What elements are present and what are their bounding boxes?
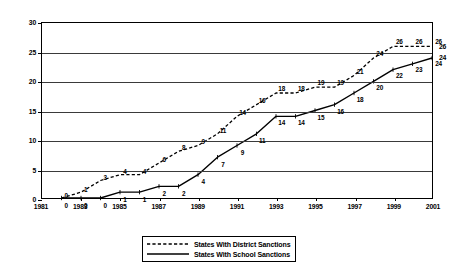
x-axis-tick [356, 198, 357, 201]
series-line-1 [62, 46, 433, 198]
data-point-label: 9 [241, 148, 244, 155]
y-axis-tick [38, 112, 42, 113]
data-point-label: 26 [396, 38, 403, 45]
data-point-label: 0 [84, 202, 87, 209]
legend-item[interactable]: States With School Sanctions [146, 249, 291, 259]
data-point-label: 6 [162, 156, 165, 163]
y-axis-tick-label: 15 [29, 107, 36, 114]
data-point-label: 19 [337, 79, 344, 86]
gridline [42, 53, 432, 54]
x-axis-tick [81, 198, 82, 201]
x-axis-tick-label: 1985 [112, 203, 126, 210]
data-point-label: 1 [123, 196, 126, 203]
x-axis-tick-label: 1999 [387, 203, 401, 210]
data-point-label: 9 [202, 138, 205, 145]
data-point-label: 15 [318, 113, 325, 120]
x-axis-tick-label: 1993 [269, 203, 283, 210]
data-point-label: 16 [259, 97, 266, 104]
data-point-label: 4 [123, 167, 126, 174]
data-point-label: 0 [104, 202, 107, 209]
data-point-label: 7 [221, 160, 224, 167]
data-point-label: 18 [357, 95, 364, 102]
x-axis-tick-label: 1995 [308, 203, 322, 210]
x-axis-tick [120, 198, 121, 201]
x-axis-tick-label: 1981 [34, 203, 48, 210]
x-axis-tick-label: 2001 [426, 203, 440, 210]
plot-area [41, 22, 433, 199]
y-axis-tick [38, 171, 42, 172]
data-point-label: 1 [143, 196, 146, 203]
data-point-label: 2 [162, 190, 165, 197]
x-axis-tick [316, 198, 317, 201]
data-point-label: 26 [416, 38, 423, 45]
series-line-2 [62, 58, 433, 198]
x-axis-tick [199, 198, 200, 201]
y-axis-tick [38, 141, 42, 142]
gridline [42, 171, 432, 172]
data-point-label: 2 [182, 190, 185, 197]
data-point-label: 0 [64, 191, 67, 198]
y-axis-tick-label: 5 [32, 166, 36, 173]
y-axis-tick-label: 10 [29, 137, 36, 144]
y-axis-labels: 051015202530 [12, 22, 36, 199]
y-axis-tick [38, 200, 42, 201]
legend-item[interactable]: States With District Sanctions [146, 239, 291, 249]
legend-dotted-line-icon [146, 240, 190, 248]
x-axis-tick-label: 1997 [347, 203, 361, 210]
data-point-label: 22 [396, 72, 403, 79]
data-point-label: 24 [435, 60, 442, 67]
series-end-label: 26 [439, 42, 446, 49]
line-chart: 051015202530 198119831985198719891991199… [0, 0, 464, 270]
legend-item-label: States With School Sanctions [194, 251, 290, 258]
data-point-label: 24 [376, 49, 383, 56]
data-point-label: 20 [376, 84, 383, 91]
x-axis-tick [238, 198, 239, 201]
x-axis-tick-label: 1989 [191, 203, 205, 210]
data-point-label: 3 [104, 173, 107, 180]
series-end-label: 24 [439, 54, 446, 61]
data-point-label: 23 [416, 66, 423, 73]
data-point-label: 14 [239, 108, 246, 115]
y-axis-tick [38, 23, 42, 24]
data-point-label: 16 [337, 107, 344, 114]
gridline [42, 112, 432, 113]
data-point-label: 19 [318, 79, 325, 86]
data-point-label: 18 [278, 85, 285, 92]
data-point-label: 18 [298, 85, 305, 92]
legend-solid-line-icon [146, 250, 190, 258]
y-axis-tick-label: 0 [32, 196, 36, 203]
y-axis-tick [38, 53, 42, 54]
chart-legend: States With District SanctionsStates Wit… [142, 236, 296, 262]
y-axis-tick-label: 30 [29, 19, 36, 26]
data-point-label: 21 [357, 67, 364, 74]
data-point-label: 0 [64, 202, 67, 209]
data-point-label: 14 [278, 119, 285, 126]
data-point-label: 14 [298, 119, 305, 126]
y-axis-tick-label: 25 [29, 48, 36, 55]
x-axis-tick-label: 1991 [230, 203, 244, 210]
y-axis-tick [38, 82, 42, 83]
data-point-label: 11 [259, 137, 265, 144]
legend-item-label: States With District Sanctions [194, 241, 291, 248]
data-point-label: 1 [84, 185, 87, 192]
x-axis-tick-label: 1987 [151, 203, 165, 210]
data-point-label: 11 [220, 126, 226, 133]
gridline [42, 82, 432, 83]
x-axis-tick [277, 198, 278, 201]
data-point-label: 8 [182, 144, 185, 151]
x-axis-tick [160, 198, 161, 201]
gridline [42, 141, 432, 142]
y-axis-tick-label: 20 [29, 78, 36, 85]
x-axis-tick [395, 198, 396, 201]
data-point-label: 4 [143, 167, 146, 174]
data-point-label: 4 [202, 178, 205, 185]
series-layer [42, 23, 432, 198]
